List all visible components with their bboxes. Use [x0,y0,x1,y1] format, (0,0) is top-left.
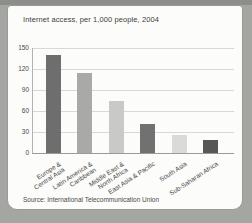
gridline-60 [33,111,234,112]
chart-card: Internet access, per 1,000 people, 2004 … [7,5,243,210]
gridline-30 [33,132,234,133]
y-tick-label-0: 0 [8,149,29,156]
source-note: Source: International Telecommunication … [23,196,159,203]
y-tick-label-90: 90 [8,86,29,93]
gridline-90 [33,90,234,91]
bar-sub-saharan-africa [203,140,218,153]
gridline-120 [33,69,234,70]
bar-south-asia [172,135,187,153]
page-background: { "page": { "background_color": "#a4a6a2… [0,0,252,223]
y-tick-label-60: 60 [8,107,29,114]
chart-title: Internet access, per 1,000 people, 2004 [23,15,159,24]
bar-east-asia-pacific [140,124,155,153]
x-axis-labels: Europe &Central AsiaLatin America &Carib… [32,156,233,201]
bar-latin-america-caribbean [77,73,92,153]
chart-plot-area: 0306090120150 [32,48,234,154]
y-tick-label-30: 30 [8,128,29,135]
gridline-150 [33,48,234,49]
y-tick-label-150: 150 [8,44,29,51]
y-tick-label-120: 120 [8,65,29,72]
bar-europe-central-asia [46,55,61,153]
bar-middle-east-north-africa [109,101,124,153]
